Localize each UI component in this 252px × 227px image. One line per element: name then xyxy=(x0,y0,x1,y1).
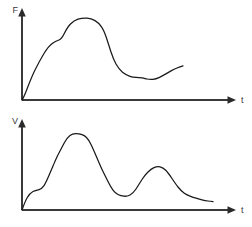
velocity-x-axis-arrowhead xyxy=(228,206,237,214)
force-x-axis-arrowhead xyxy=(228,96,237,104)
velocity-chart-svg: V t xyxy=(0,113,252,226)
chart-panel-force: F t xyxy=(0,0,252,113)
force-x-axis-label: t xyxy=(241,95,244,105)
force-chart-svg: F t xyxy=(0,0,252,113)
velocity-y-axis-arrowhead xyxy=(18,119,26,128)
force-curve xyxy=(22,18,183,100)
velocity-y-axis-label: V xyxy=(12,116,18,126)
force-y-axis-label: F xyxy=(13,5,19,15)
force-y-axis-arrowhead xyxy=(18,8,26,17)
velocity-curve xyxy=(22,134,213,210)
figure-root: F t V t xyxy=(0,0,252,227)
velocity-x-axis-label: t xyxy=(241,205,244,215)
chart-panel-velocity: V t xyxy=(0,113,252,226)
